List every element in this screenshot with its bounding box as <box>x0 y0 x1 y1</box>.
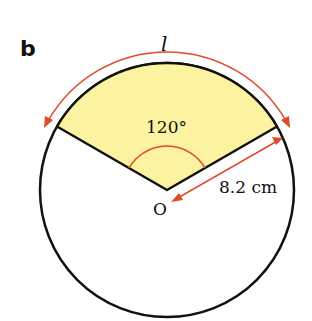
arrowhead-left <box>44 116 53 128</box>
circle-sector-diagram: b l 120° O 8.2 cm <box>0 0 312 321</box>
arrowhead-right <box>281 116 290 128</box>
angle-label: 120° <box>146 117 187 137</box>
radius-label: 8.2 cm <box>219 177 277 197</box>
center-label: O <box>153 199 167 219</box>
arc-length-label: l <box>161 32 167 56</box>
panel-label: b <box>20 36 36 61</box>
